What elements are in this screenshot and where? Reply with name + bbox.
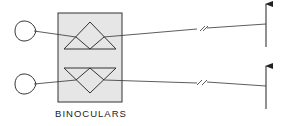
binoculars-label: BINOCULARS	[52, 108, 130, 119]
upper-eye-icon	[15, 21, 36, 41]
binocular-housing	[58, 13, 122, 102]
binoculars-diagram	[0, 0, 285, 126]
lower-eye-icon	[15, 74, 36, 94]
